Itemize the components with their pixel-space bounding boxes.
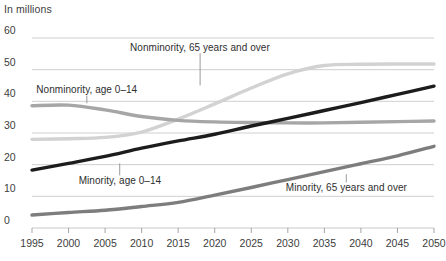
y-axis-tick-label: 60 (4, 24, 16, 36)
y-axis-tick-label: 30 (4, 119, 16, 131)
x-axis-tick-label: 2025 (240, 237, 263, 249)
x-axis-tick-label: 2000 (57, 237, 80, 249)
series-annotation-label: Minority, age 0–14 (79, 175, 161, 186)
x-axis-tick-label: 2015 (166, 237, 189, 249)
series-annotation-label: Minority, 65 years and over (286, 182, 407, 193)
y-axis-tick-label: 10 (4, 182, 16, 194)
x-axis-tick-label: 2035 (313, 237, 336, 249)
series-annotation-label: Nonminority, age 0–14 (36, 84, 137, 95)
y-axis-tick-label: 0 (4, 214, 10, 226)
x-axis-tick-label: 2005 (93, 237, 116, 249)
x-axis-tick-label: 2050 (422, 237, 445, 249)
series-line (32, 105, 434, 123)
x-axis-tick-label: 2045 (386, 237, 409, 249)
series-line (32, 86, 434, 170)
y-axis-tick-label: 40 (4, 87, 16, 99)
y-axis-tick-label: 20 (4, 151, 16, 163)
x-axis-tick-label: 2010 (130, 237, 153, 249)
y-axis-tick-label: 50 (4, 56, 16, 68)
x-axis-tick-label: 2030 (276, 237, 299, 249)
x-axis-tick-label: 1995 (20, 237, 43, 249)
x-axis-tick-label: 2040 (349, 237, 372, 249)
series-annotation-label: Nonminority, 65 years and over (130, 42, 270, 53)
x-axis-tick-label: 2020 (203, 237, 226, 249)
